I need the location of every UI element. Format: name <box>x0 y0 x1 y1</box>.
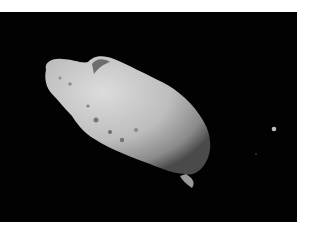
space-photo <box>0 12 297 222</box>
moon <box>272 127 277 132</box>
asteroid <box>45 56 210 174</box>
asteroid-illustration <box>0 12 297 222</box>
